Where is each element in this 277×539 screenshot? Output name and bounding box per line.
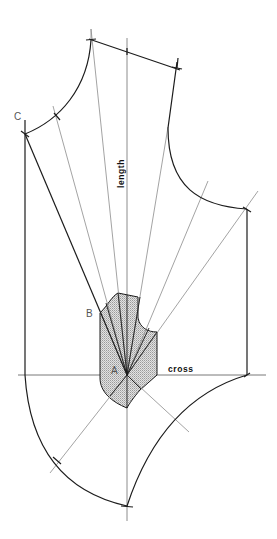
armhole-curve [168, 62, 247, 209]
axes [18, 38, 266, 521]
tick-marks [21, 39, 251, 507]
neck-curve [25, 40, 91, 134]
right-lower-arc [127, 375, 247, 506]
line-c-to-a [25, 134, 127, 375]
shoulder-line [89, 39, 180, 70]
tick-mark [86, 39, 96, 40]
label-length-axis: length [116, 159, 126, 188]
radial-line-1 [53, 106, 127, 375]
tick-mark [121, 506, 133, 507]
radial-lines [50, 29, 258, 473]
label-point-c: C [14, 111, 21, 122]
shoulder-end-extension [177, 58, 178, 68]
label-point-b: B [86, 308, 93, 319]
pattern-diagram: C B A cross length [0, 0, 277, 539]
radial-line-lower-right [127, 375, 189, 432]
label-point-a: A [111, 365, 118, 376]
pattern-outline [25, 29, 247, 506]
label-cross-axis: cross [168, 364, 194, 374]
